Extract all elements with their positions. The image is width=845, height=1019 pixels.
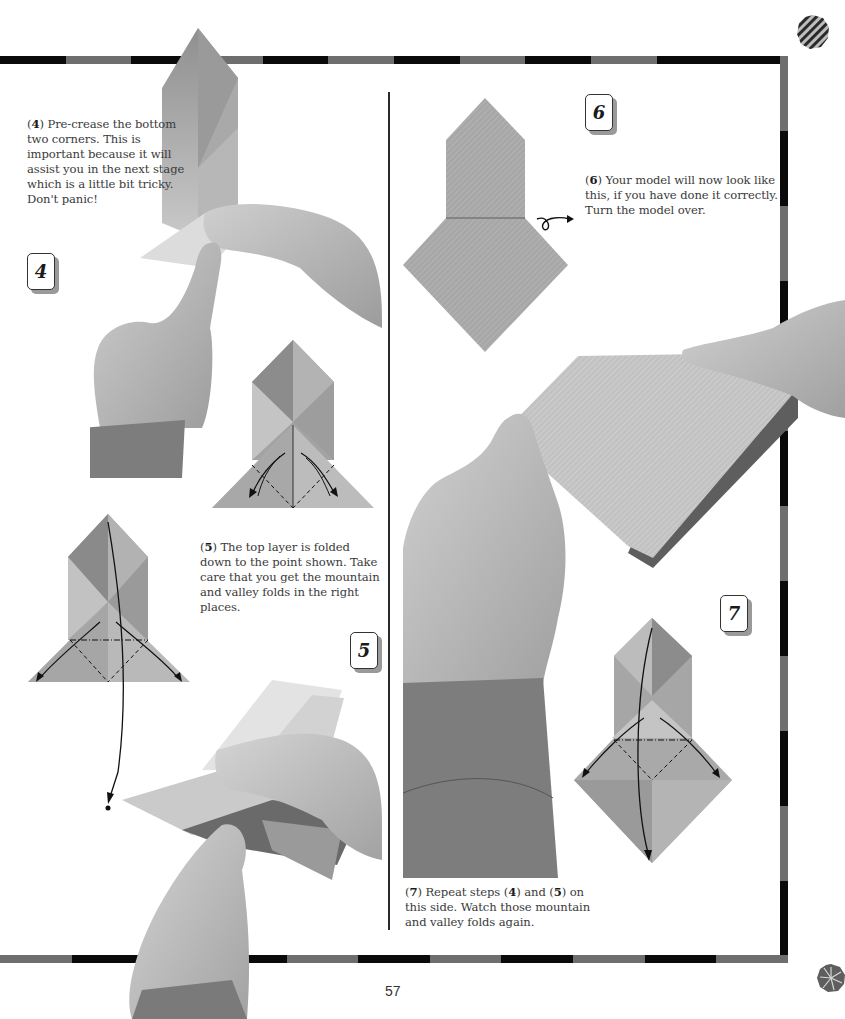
step5-caption: (5) The top layer is folded down to the … — [200, 540, 380, 615]
step4-diagram — [212, 340, 377, 512]
origami-kusudama-emblem-icon — [796, 14, 830, 50]
step4-caption: (4) Pre-crease the bottom two corners. T… — [27, 117, 187, 207]
step7-diagram — [574, 618, 736, 864]
page-number: 57 — [385, 983, 401, 999]
column-divider — [388, 92, 390, 930]
step7-caption: (7) Repeat steps (4) and (5) on this sid… — [405, 885, 605, 930]
step5-number-badge: 5 — [350, 632, 378, 669]
step5-photo — [72, 670, 384, 1019]
step6-caption: (6) Your model will now look like this, … — [585, 173, 785, 218]
step6-number-badge: 6 — [585, 94, 613, 131]
origami-rosette-emblem-icon — [816, 963, 845, 993]
turn-over-arrow-icon — [536, 213, 576, 235]
step4-number-badge: 4 — [27, 253, 55, 290]
